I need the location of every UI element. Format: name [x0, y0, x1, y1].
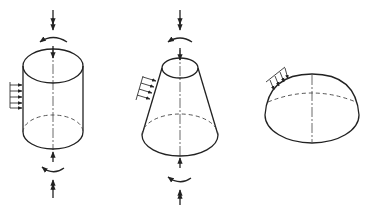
cylinder-top-torque-icon — [40, 38, 67, 43]
hemisphere-normal-pressure-icon — [266, 67, 288, 90]
cone-figure — [136, 10, 218, 205]
cylinder-figure — [10, 10, 83, 198]
cone-bottom-torque-icon — [168, 177, 191, 182]
cylinder-bottom-torque-icon — [42, 167, 64, 172]
shell-loading-diagram — [0, 0, 372, 215]
cone-right-side — [198, 68, 218, 135]
hemisphere-figure — [265, 67, 359, 143]
cylinder-lateral-pressure-icon — [10, 82, 22, 108]
cone-top-torque-icon — [168, 38, 192, 42]
